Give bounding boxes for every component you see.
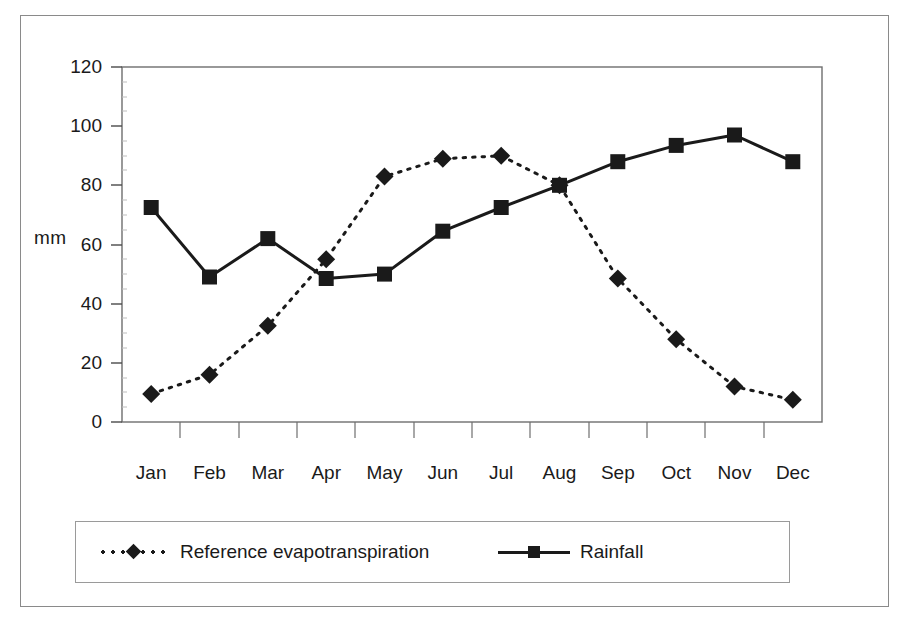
square-marker-icon <box>528 546 540 558</box>
plot-region: mm 120 100 80 60 40 20 0 Jan Feb Mar Apr… <box>0 0 921 625</box>
x-tick-label-apr: Apr <box>296 462 356 484</box>
chart-figure: mm 120 100 80 60 40 20 0 Jan Feb Mar Apr… <box>0 0 921 625</box>
legend-item-reference-evapotranspiration[interactable]: Reference evapotranspiration <box>98 541 429 563</box>
x-tick-label-jul: Jul <box>471 462 531 484</box>
x-tick-label-may: May <box>355 462 415 484</box>
y-tick-label-80: 80 <box>56 174 102 196</box>
legend-swatch-eto <box>98 543 170 561</box>
x-tick-label-mar: Mar <box>238 462 298 484</box>
x-tick-label-feb: Feb <box>180 462 240 484</box>
legend-swatch-rainfall <box>498 543 570 561</box>
series-markers-eto <box>142 147 802 409</box>
x-tick-label-jan: Jan <box>121 462 181 484</box>
plot-frame <box>122 67 822 422</box>
chart-legend: Reference evapotranspiration Rainfall <box>75 521 790 583</box>
x-tick-label-aug: Aug <box>530 462 590 484</box>
x-axis-ticks <box>180 422 764 438</box>
x-tick-label-oct: Oct <box>646 462 706 484</box>
y-axis-ticks <box>111 67 122 422</box>
y-tick-label-40: 40 <box>56 293 102 315</box>
y-axis-minor-ticks <box>122 82 127 407</box>
y-tick-label-100: 100 <box>56 115 102 137</box>
y-tick-label-120: 120 <box>56 56 102 78</box>
y-tick-label-20: 20 <box>56 352 102 374</box>
series-markers-rainfall <box>144 128 801 287</box>
legend-label-eto: Reference evapotranspiration <box>180 541 429 563</box>
y-tick-label-60: 60 <box>56 234 102 256</box>
y-tick-label-0: 0 <box>56 411 102 433</box>
x-tick-label-nov: Nov <box>705 462 765 484</box>
legend-label-rainfall: Rainfall <box>580 541 643 563</box>
diamond-marker-icon <box>126 544 142 560</box>
legend-item-rainfall[interactable]: Rainfall <box>498 541 643 563</box>
x-tick-label-sep: Sep <box>588 462 648 484</box>
series-line-eto <box>151 156 793 400</box>
x-tick-label-dec: Dec <box>763 462 823 484</box>
x-tick-label-jun: Jun <box>413 462 473 484</box>
